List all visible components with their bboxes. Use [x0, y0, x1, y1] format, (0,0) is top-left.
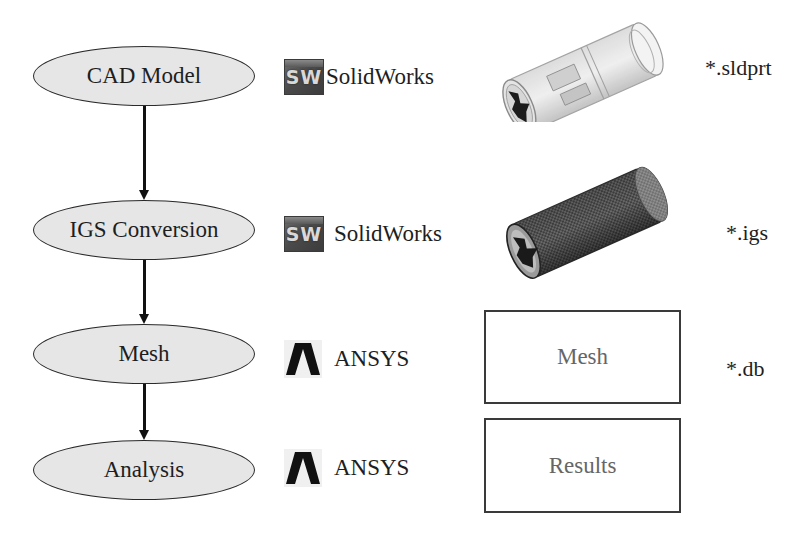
arrow-head-icon — [139, 190, 149, 200]
step-label: IGS Conversion — [70, 217, 219, 243]
arrow-connector — [143, 260, 146, 316]
solidworks-logo-icon: SW — [284, 59, 324, 95]
box-label: Mesh — [557, 344, 608, 370]
extension-db: *.db — [726, 356, 765, 382]
arrow-connector — [143, 384, 146, 432]
step-analysis: Analysis — [33, 440, 255, 500]
extension-igs: *.igs — [726, 220, 768, 246]
tool-label: ANSYS — [334, 346, 409, 372]
step-label: CAD Model — [87, 63, 201, 89]
arrow-head-icon — [139, 314, 149, 324]
arrow-connector — [143, 106, 146, 192]
tool-label: ANSYS — [334, 455, 409, 481]
mesh-output-box: Mesh — [484, 310, 681, 404]
step-cad-model: CAD Model — [33, 46, 255, 106]
arrow-head-icon — [139, 430, 149, 440]
solidworks-logo-icon: SW — [284, 216, 324, 252]
results-output-box: Results — [484, 418, 681, 513]
ansys-logo-icon — [284, 340, 322, 378]
igs-wireframe-rendering — [500, 162, 675, 282]
extension-sldprt: *.sldprt — [705, 55, 772, 81]
cad-model-rendering — [495, 22, 670, 122]
step-label: Analysis — [104, 457, 185, 483]
step-label: Mesh — [118, 341, 169, 367]
tool-label: SolidWorks — [326, 64, 434, 90]
ansys-logo-icon — [284, 449, 322, 487]
tool-solidworks-igs: SW SolidWorks — [284, 216, 442, 252]
step-mesh: Mesh — [33, 324, 255, 384]
tool-solidworks-cad: SW SolidWorks — [284, 59, 434, 95]
tool-ansys-analysis: ANSYS — [284, 449, 409, 487]
tool-ansys-mesh: ANSYS — [284, 340, 409, 378]
step-igs-conversion: IGS Conversion — [33, 200, 255, 260]
box-label: Results — [549, 453, 617, 479]
tool-label: SolidWorks — [334, 221, 442, 247]
